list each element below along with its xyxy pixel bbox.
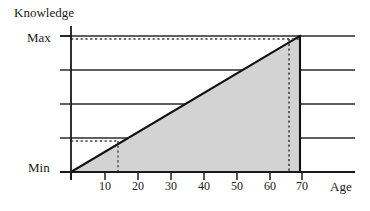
x-axis-ticks bbox=[71, 172, 302, 180]
chart-figure: Knowledge Max Min Age 10 20 30 40 50 60 … bbox=[0, 0, 370, 211]
plot-area bbox=[0, 0, 370, 211]
